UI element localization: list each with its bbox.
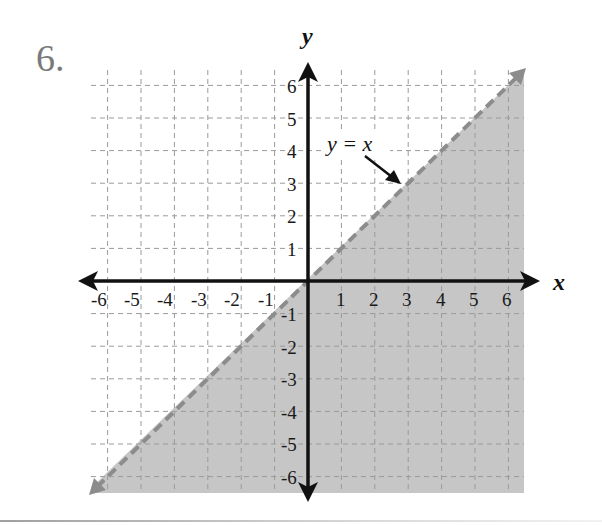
y-tick: -5 (281, 434, 297, 455)
y-tick: -1 (281, 304, 297, 325)
y-tick: 6 (287, 76, 297, 97)
x-tick: -6 (91, 289, 107, 310)
y-tick: 4 (287, 141, 297, 162)
y-tick: 5 (287, 109, 297, 130)
bottom-divider (0, 520, 602, 522)
x-tick: 2 (369, 289, 379, 310)
y-tick: -6 (281, 467, 297, 488)
x-axis-label: x (552, 269, 565, 295)
y-tick: 1 (287, 239, 297, 260)
y-tick: -4 (281, 402, 297, 423)
x-tick: -1 (258, 289, 274, 310)
y-tick: -2 (281, 337, 297, 358)
x-tick: -5 (124, 289, 140, 310)
x-tick: -2 (224, 289, 240, 310)
x-tick: 5 (469, 289, 479, 310)
x-tick: -4 (157, 289, 173, 310)
x-tick: -3 (191, 289, 207, 310)
x-tick: 6 (502, 289, 512, 310)
x-tick: 4 (436, 289, 446, 310)
x-tick: 3 (402, 289, 412, 310)
y-axis-label: y (299, 23, 313, 49)
equation-label: y = x (325, 131, 373, 156)
coordinate-plane: y x -6 -5 -4 -3 -2 -1 1 2 3 4 5 6 1 2 3 … (0, 0, 602, 525)
x-tick: 1 (336, 289, 346, 310)
annotation-arrow-line (365, 156, 392, 177)
y-tick: 2 (287, 206, 297, 227)
y-tick: -3 (281, 369, 297, 390)
y-tick: 3 (287, 174, 297, 195)
